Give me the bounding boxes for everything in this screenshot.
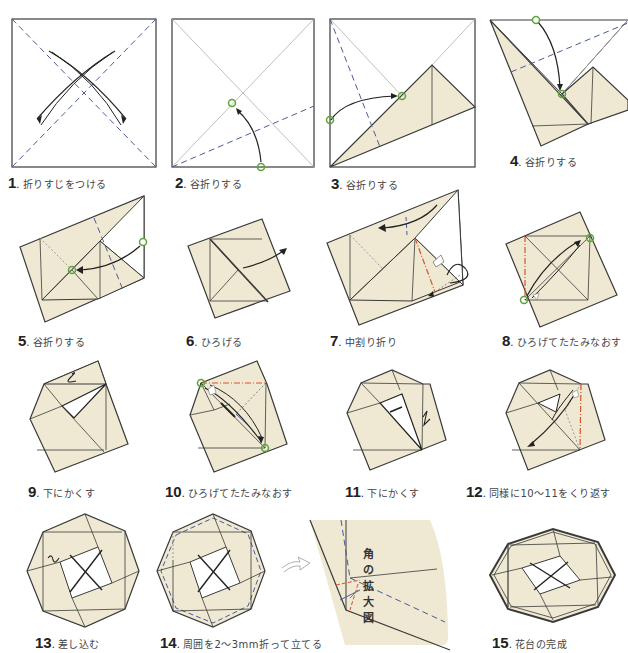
step-text: 花台の完成 [515, 639, 568, 650]
step-15-caption: 15.花台の完成 [492, 634, 567, 651]
step-15-diagram [0, 0, 628, 653]
step-number: 15 [492, 634, 509, 651]
